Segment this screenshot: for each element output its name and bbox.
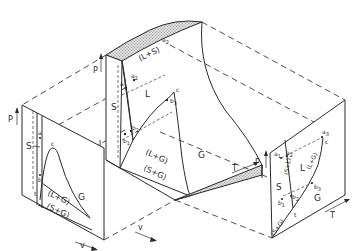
pt-axis-t: T: [329, 211, 335, 220]
point-a2-top: a2: [162, 36, 169, 45]
pv-region-gas: G: [78, 192, 85, 202]
pv-projection: P v S a c b t (L+G) (S+G) G: [8, 105, 104, 251]
pv-point-b: b: [38, 176, 42, 183]
center-axis-p: P: [93, 66, 98, 75]
center-axis-t: T: [231, 164, 237, 173]
pv-axis-p: P: [8, 115, 13, 124]
region-liquid: L: [145, 89, 150, 99]
pt-point-c: c: [325, 138, 328, 145]
point-b2: b2: [132, 124, 139, 133]
center-axis-v: v: [138, 223, 143, 232]
point-b3: b3: [170, 97, 177, 106]
region-liquid-gas: (L+G): [144, 148, 169, 166]
phase-diagram: P v T (L+S) S L (L+G) (S+G) G a1 a2 a2 c…: [0, 0, 356, 251]
point-b1: b1: [123, 137, 130, 146]
region-solid: S: [111, 102, 117, 112]
region-gas: G: [198, 150, 205, 160]
pv-point-a: a: [38, 129, 42, 136]
pv-region-solid: S: [26, 141, 32, 151]
center-surface: P v T (L+S) S L (L+G) (S+G) G a1 a2 a2 c…: [93, 21, 262, 242]
pt-axis-p: P: [255, 158, 260, 167]
pt-projection: P T S L G (S+L) (L+G) (S+G) a1 a2 a3 c b…: [255, 100, 350, 238]
region-solid-gas: (S+G): [142, 164, 168, 182]
point-c: c: [176, 86, 179, 93]
point-a2: a2: [131, 72, 138, 81]
pt-region-solid: S: [276, 182, 282, 192]
pt-region-gas: G: [314, 193, 321, 203]
pv-point-c: c: [51, 140, 54, 147]
pv-axis-v: v: [80, 241, 85, 250]
